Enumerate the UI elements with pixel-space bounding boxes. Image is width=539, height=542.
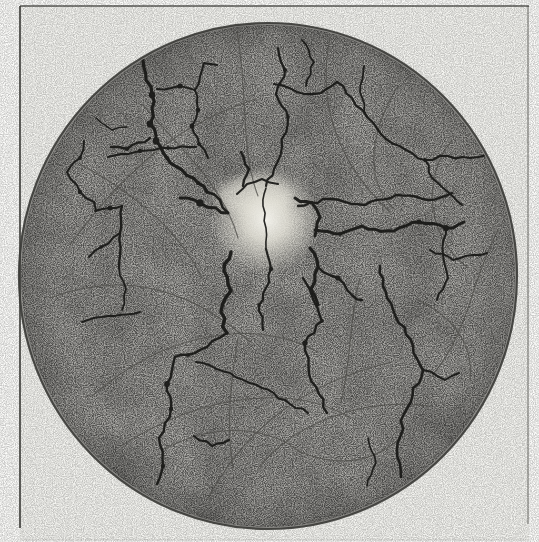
figure-plate bbox=[0, 0, 539, 542]
engraving-svg bbox=[0, 0, 539, 542]
engraving-root bbox=[0, 0, 539, 542]
